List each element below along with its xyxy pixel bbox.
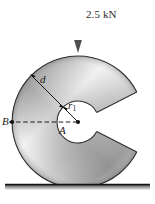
point-B-label: B	[2, 116, 9, 127]
dimension-r1-label: r1	[68, 100, 76, 111]
r1-base-letter: r	[68, 99, 72, 111]
load-arrow-head	[74, 40, 82, 53]
point-A-label: A	[59, 125, 66, 136]
dimension-d-label: d	[40, 74, 46, 85]
mechanics-figure: 2.5 kN d r1 A B	[0, 0, 155, 204]
load-label: 2.5 kN	[86, 9, 117, 20]
load-arrow	[74, 8, 82, 53]
point-B-dot	[10, 120, 14, 124]
figure-canvas	[0, 0, 155, 204]
ground	[5, 184, 150, 190]
r1-subscript: 1	[73, 104, 77, 113]
